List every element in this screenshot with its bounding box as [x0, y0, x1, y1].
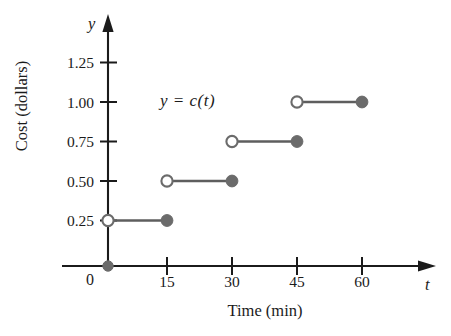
x-tick-label-30: 30 [207, 274, 257, 290]
y-tick-label-0.75: 0.75 [44, 134, 94, 150]
closed-endpoint-15-0.25 [161, 215, 173, 227]
y-axis-variable-label: y [88, 16, 95, 33]
x-tick-label-15: 15 [142, 274, 192, 290]
y-axis-title: Cost (dollars) [12, 61, 31, 151]
origin-point-marker [103, 261, 113, 271]
step-function-figure: 1.25 1.00 0.75 0.50 0.25 0 15 30 45 60 y… [0, 0, 451, 336]
open-endpoint-30-0.75 [226, 136, 237, 147]
x-axis-title: Time (min) [200, 303, 330, 320]
x-tick-label-0: 0 [86, 272, 94, 288]
closed-endpoint-45-0.75 [291, 136, 303, 148]
step-endpoints [102, 96, 368, 271]
y-tick-label-1.25: 1.25 [44, 55, 94, 71]
y-tick-label-0.25: 0.25 [44, 213, 94, 229]
open-endpoint-0-0.25 [102, 215, 113, 226]
x-tick-label-60: 60 [337, 274, 387, 290]
y-tick-label-0.50: 0.50 [44, 174, 94, 190]
y-axis-title-wrapper: Cost (dollars) [12, 26, 32, 186]
function-annotation: y = c(t) [160, 92, 215, 109]
closed-endpoint-60-1.00 [356, 96, 368, 108]
x-tick-label-45: 45 [272, 274, 322, 290]
y-axis-arrowhead [102, 14, 113, 32]
x-axis-arrowhead [418, 261, 436, 272]
y-tick-label-1.00: 1.00 [44, 95, 94, 111]
open-endpoint-15-0.50 [161, 175, 172, 186]
open-endpoint-45-1.00 [291, 96, 302, 107]
axes [62, 14, 436, 271]
step-function-curve [108, 102, 362, 221]
closed-endpoint-30-0.50 [226, 175, 238, 187]
x-axis-variable-label: t [425, 277, 430, 294]
